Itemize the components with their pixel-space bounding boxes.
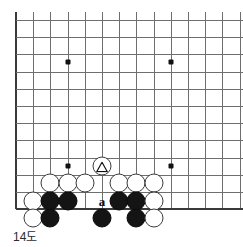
black-stone[interactable]	[41, 208, 60, 227]
figure-caption: 14도	[13, 228, 133, 247]
star-point	[65, 164, 70, 169]
white-stone[interactable]	[24, 208, 43, 227]
white-stone[interactable]	[24, 191, 43, 210]
grid-line-horizontal	[16, 106, 243, 107]
white-stone[interactable]	[75, 174, 94, 193]
grid-line-horizontal	[16, 72, 243, 73]
grid-line-horizontal	[16, 89, 243, 90]
white-stone[interactable]	[127, 174, 146, 193]
grid-line-vertical	[240, 12, 241, 209]
black-stone[interactable]	[58, 191, 77, 210]
white-stone[interactable]	[110, 174, 129, 193]
grid-line-horizontal	[16, 37, 243, 38]
white-stone[interactable]	[144, 191, 163, 210]
white-stone[interactable]	[93, 157, 112, 176]
grid-line-vertical	[171, 12, 172, 209]
white-stone[interactable]	[144, 208, 163, 227]
black-stone[interactable]	[110, 191, 129, 210]
black-stone[interactable]	[41, 191, 60, 210]
grid-line-horizontal	[16, 20, 243, 21]
star-point	[168, 60, 173, 65]
white-stone[interactable]	[41, 174, 60, 193]
grid-line-vertical	[205, 12, 206, 209]
black-stone[interactable]	[127, 191, 146, 210]
white-stone[interactable]	[144, 174, 163, 193]
white-stone[interactable]	[58, 174, 77, 193]
grid-line-horizontal	[16, 123, 243, 124]
grid-line-horizontal	[16, 140, 243, 141]
grid-line-vertical	[33, 12, 34, 209]
grid-line-vertical	[15, 12, 17, 209]
grid-line-vertical	[222, 12, 223, 209]
go-board[interactable]: a	[0, 0, 243, 228]
black-stone[interactable]	[93, 208, 112, 227]
point-label-a[interactable]: a	[99, 194, 106, 207]
star-point	[168, 164, 173, 169]
black-stone[interactable]	[127, 208, 146, 227]
grid-line-horizontal	[16, 54, 243, 55]
go-diagram-figure: a 14도	[0, 0, 243, 247]
grid-line-vertical	[102, 12, 103, 209]
grid-line-horizontal	[16, 158, 243, 159]
grid-line-vertical	[188, 12, 189, 209]
star-point	[65, 60, 70, 65]
